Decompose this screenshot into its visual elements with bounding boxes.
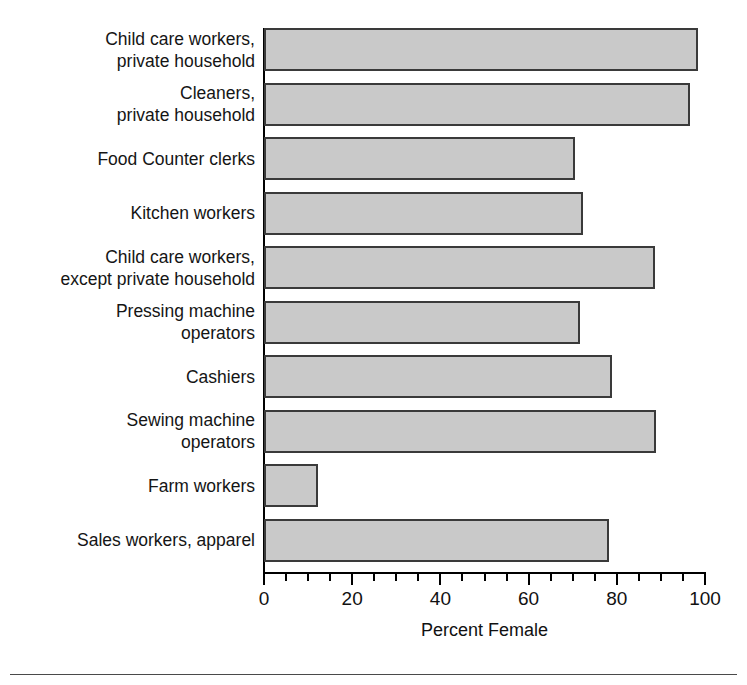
bar-category-label: Sales workers, apparel <box>0 529 255 551</box>
bar-category-label: Food Counter clerks <box>0 148 255 170</box>
bar-chart-figure: Child care workers, private householdCle… <box>0 0 747 685</box>
bar-track <box>264 464 705 507</box>
x-tick-minor <box>484 574 486 581</box>
x-tick-minor <box>550 574 552 581</box>
bar-row: Cleaners, private household <box>0 83 747 138</box>
x-tick-label: 100 <box>675 588 735 610</box>
bottom-divider-rule <box>10 674 737 675</box>
bar-category-label: Child care workers, except private house… <box>0 246 255 290</box>
bar <box>264 28 698 71</box>
x-tick-minor <box>506 574 508 581</box>
bar <box>264 301 580 344</box>
bar-row: Food Counter clerks <box>0 137 747 192</box>
bar <box>264 137 575 180</box>
x-tick-minor <box>572 574 574 581</box>
x-tick-minor <box>285 574 287 581</box>
bar-track <box>264 410 705 453</box>
bar-row: Sewing machine operators <box>0 410 747 465</box>
bar <box>264 192 583 235</box>
x-tick-minor <box>461 574 463 581</box>
bar <box>264 246 655 289</box>
bar-category-label: Cleaners, private household <box>0 82 255 126</box>
bar-row: Farm workers <box>0 464 747 519</box>
x-tick-major <box>263 574 265 585</box>
bar-row: Child care workers, except private house… <box>0 246 747 301</box>
bar-category-label: Farm workers <box>0 475 255 497</box>
x-tick-label: 80 <box>587 588 647 610</box>
bar-track <box>264 28 705 71</box>
bar-row: Kitchen workers <box>0 192 747 247</box>
x-tick-minor <box>329 574 331 581</box>
x-tick-major <box>528 574 530 585</box>
x-axis-title: Percent Female <box>264 620 705 641</box>
x-tick-label: 20 <box>322 588 382 610</box>
x-tick-minor <box>395 574 397 581</box>
bar-track <box>264 519 705 562</box>
bar-category-label: Cashiers <box>0 366 255 388</box>
x-tick-major <box>704 574 706 585</box>
bar-track <box>264 301 705 344</box>
x-tick-minor <box>660 574 662 581</box>
x-tick-minor <box>307 574 309 581</box>
bar-track <box>264 137 705 180</box>
bar-category-label: Pressing machine operators <box>0 300 255 344</box>
bar-row: Sales workers, apparel <box>0 519 747 574</box>
x-tick-label: 0 <box>234 588 294 610</box>
x-tick-label: 40 <box>410 588 470 610</box>
bar <box>264 410 656 453</box>
bar-category-label: Child care workers, private household <box>0 28 255 72</box>
x-tick-minor <box>682 574 684 581</box>
x-tick-major <box>439 574 441 585</box>
x-tick-minor <box>638 574 640 581</box>
x-tick-minor <box>417 574 419 581</box>
bar <box>264 355 612 398</box>
x-tick-label: 60 <box>499 588 559 610</box>
bar-row: Pressing machine operators <box>0 301 747 356</box>
bar <box>264 464 318 507</box>
bar-track <box>264 355 705 398</box>
bar <box>264 83 690 126</box>
bar <box>264 519 609 562</box>
bar-row: Child care workers, private household <box>0 28 747 83</box>
bar-track <box>264 246 705 289</box>
x-tick-major <box>616 574 618 585</box>
bar-track <box>264 192 705 235</box>
bar-category-label: Kitchen workers <box>0 202 255 224</box>
bar-row: Cashiers <box>0 355 747 410</box>
x-tick-minor <box>373 574 375 581</box>
x-tick-minor <box>594 574 596 581</box>
bar-category-label: Sewing machine operators <box>0 409 255 453</box>
bar-track <box>264 83 705 126</box>
x-tick-major <box>351 574 353 585</box>
